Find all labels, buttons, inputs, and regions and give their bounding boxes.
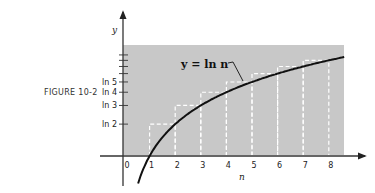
y-tick-label: ln 2 [102,120,117,129]
y-axis-label: y [111,25,118,35]
x-tick-label: 8 [328,161,333,170]
shaded-region [123,45,344,155]
y-tick-label: ln 3 [102,101,117,110]
x-tick-label: 6 [277,161,282,170]
y-tick-label: ln 4 [102,88,117,97]
curve-label: y = ln n [180,58,228,71]
x-axis-ticks: 012345678 [124,161,333,170]
x-tick-label: 5 [251,161,256,170]
x-tick-label: 4 [226,161,231,170]
x-tick-label: 1 [149,161,154,170]
y-tick-label: ln 5 [102,78,117,87]
x-tick-label: 7 [303,161,308,170]
ln-curve-chart: ln 2ln 3ln 4ln 5 012345678 y n y = ln n [0,0,375,193]
x-tick-label: 3 [200,161,205,170]
x-axis-label: n [239,172,245,182]
x-tick-label: 0 [124,161,129,170]
x-tick-label: 2 [175,161,180,170]
